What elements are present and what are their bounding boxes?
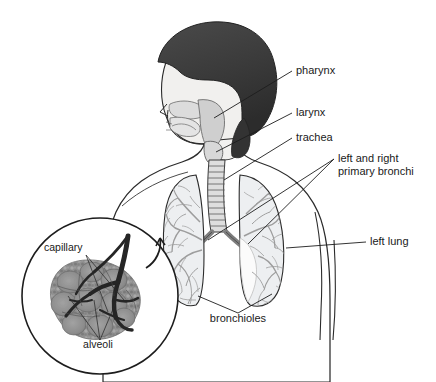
label-alveoli: alveoli bbox=[83, 338, 113, 350]
label-pharynx: pharynx bbox=[296, 64, 336, 76]
label-primary-bronchi-line1: left and right bbox=[338, 152, 399, 164]
label-left-lung: left lung bbox=[370, 235, 409, 247]
arm-contour bbox=[315, 212, 322, 340]
larynx bbox=[204, 141, 223, 162]
label-larynx: larynx bbox=[296, 106, 326, 118]
leader-bronchioles-left bbox=[198, 296, 238, 313]
trachea bbox=[208, 160, 227, 232]
lung-right-side bbox=[239, 174, 293, 306]
label-trachea: trachea bbox=[296, 131, 334, 143]
diagram-canvas: pharynx larynx trachea left and right pr… bbox=[0, 0, 436, 382]
label-bronchioles: bronchioles bbox=[210, 312, 267, 324]
label-primary-bronchi-line2: primary bronchi bbox=[338, 165, 414, 177]
label-capillary: capillary bbox=[44, 241, 83, 253]
upper-airway-cavity bbox=[166, 100, 225, 162]
respiratory-system-diagram: pharynx larynx trachea left and right pr… bbox=[0, 0, 436, 382]
arm-outer-contour bbox=[333, 240, 335, 340]
